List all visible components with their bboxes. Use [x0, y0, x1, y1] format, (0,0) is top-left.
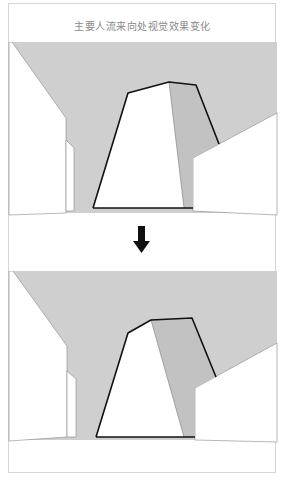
left-small-building: [66, 140, 74, 211]
panel-before: [0, 42, 285, 217]
down-arrow-icon: [132, 226, 152, 256]
panel-after: [0, 271, 285, 446]
left-small-building: [67, 371, 76, 437]
figure-title: 主要人流来向处视觉效果变化: [0, 18, 285, 33]
